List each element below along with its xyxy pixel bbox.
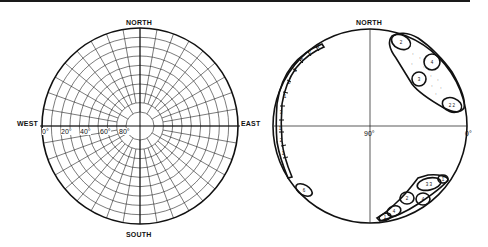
tick-60: 60° (100, 128, 111, 135)
tick-40: 40° (80, 128, 91, 135)
southwest-value: 6 (303, 188, 306, 193)
svg-text:2: 2 (400, 40, 403, 45)
svg-text:,: , (419, 54, 420, 59)
right-center-label: 90° (364, 130, 375, 137)
svg-text:2: 2 (406, 196, 409, 201)
left-east-label: EAST (241, 120, 260, 127)
right-north-label: NORTH (356, 19, 382, 26)
svg-text:,: , (430, 72, 431, 77)
svg-text:2 2: 2 2 (449, 103, 456, 108)
left-south-label: SOUTH (126, 231, 152, 238)
tick-80: 80° (119, 128, 130, 135)
svg-text:,: , (412, 50, 413, 55)
svg-text:,: , (435, 90, 436, 95)
cluster-west-rim (276, 44, 324, 178)
svg-text:3: 3 (418, 77, 421, 82)
tick-0: 0° (42, 128, 49, 135)
svg-text:1: 1 (442, 177, 445, 182)
svg-text:4: 4 (431, 60, 434, 65)
cluster-southeast (377, 175, 448, 223)
left-west-label: WEST (17, 120, 38, 127)
right-edge-label: 0° (465, 130, 472, 137)
svg-text:1: 1 (284, 94, 287, 99)
svg-text:,: , (423, 63, 424, 68)
left-north-label: NORTH (126, 19, 152, 26)
svg-text:,: , (437, 76, 438, 81)
svg-text:4: 4 (393, 209, 396, 214)
svg-text:3 3: 3 3 (426, 182, 433, 187)
svg-text:,: , (411, 60, 412, 65)
tick-20: 20° (61, 128, 72, 135)
svg-text:2: 2 (288, 80, 291, 85)
svg-text:,: , (431, 82, 432, 87)
svg-text:,: , (440, 84, 441, 89)
